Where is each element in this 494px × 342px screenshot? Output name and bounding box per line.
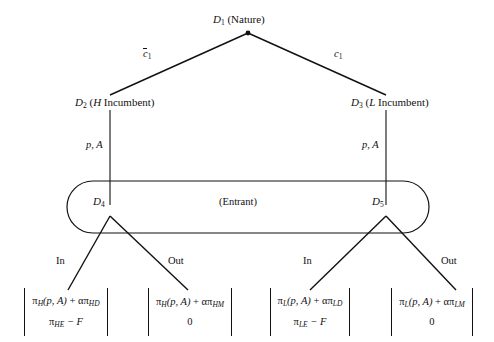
edge-label-d5-in: In bbox=[303, 256, 312, 267]
edge-label-d4-out: Out bbox=[168, 256, 184, 267]
edge-label-d4-in: In bbox=[56, 256, 65, 267]
edge-label-d5-out: Out bbox=[441, 256, 457, 267]
edge-d4-out bbox=[110, 216, 188, 290]
edge-label-nature-right: c1 bbox=[334, 49, 342, 60]
edge-nature-to-low bbox=[248, 33, 386, 95]
bracket-right bbox=[231, 288, 232, 336]
payoff-top-line: πL(p, A) + απLD bbox=[278, 296, 343, 307]
node-label-entrant-left: D4 bbox=[93, 196, 105, 208]
payoff-top-line: πH(p, A) + απHM bbox=[156, 297, 224, 308]
payoff-low-out: πL(p, A) + απLM 0 bbox=[374, 288, 490, 336]
node-dot-root bbox=[246, 31, 251, 36]
node-label-root: D1 (Nature) bbox=[213, 14, 265, 26]
payoff-high-in: πH(p, A) + απHD πHE − F bbox=[8, 288, 124, 336]
information-set-player-label: (Entrant) bbox=[219, 197, 257, 208]
edge-d5-out bbox=[386, 216, 456, 290]
edge-nature-to-high bbox=[110, 33, 248, 95]
payoff-top-line: πH(p, A) + απHD bbox=[32, 296, 99, 307]
payoff-bottom-line: πLE − F bbox=[294, 317, 327, 328]
payoff-top-line: πL(p, A) + απLM bbox=[399, 297, 465, 308]
node-label-entrant-right: D5 bbox=[372, 196, 384, 208]
payoff-bottom-line: 0 bbox=[187, 317, 192, 328]
payoff-bottom-line: πHE − F bbox=[49, 317, 83, 328]
payoff-bottom-line: 0 bbox=[429, 317, 434, 328]
payoff-high-out: πH(p, A) + απHM 0 bbox=[132, 288, 248, 336]
bracket-right bbox=[472, 288, 473, 336]
node-label-incumbent-high: D2 (H Incumbent) bbox=[75, 97, 155, 109]
edge-label-low-strategy: p, A bbox=[362, 140, 379, 151]
edge-label-nature-left: c1 bbox=[143, 48, 151, 60]
payoff-low-in: πL(p, A) + απLD πLE − F bbox=[252, 288, 368, 336]
game-tree-figure: D1 (Nature) D2 (H Incumbent) D3 (L Incum… bbox=[0, 0, 494, 342]
bracket-right bbox=[349, 288, 350, 336]
bracket-right bbox=[107, 288, 108, 336]
node-label-incumbent-low: D3 (L Incumbent) bbox=[351, 97, 429, 109]
edge-d4-in bbox=[68, 216, 110, 290]
edge-label-high-strategy: p, A bbox=[86, 140, 103, 151]
edge-d5-in bbox=[310, 216, 386, 290]
